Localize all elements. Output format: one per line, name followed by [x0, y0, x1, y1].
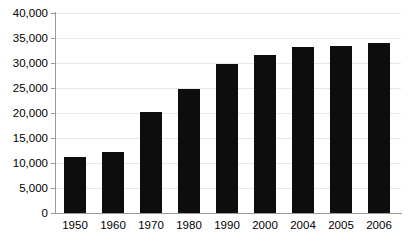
- x-axis-tick-label: 2006: [360, 219, 398, 231]
- x-axis-line: [56, 213, 402, 214]
- bar-series: [56, 13, 401, 213]
- bar: [102, 152, 124, 213]
- x-axis-tick-label: 1960: [94, 219, 132, 231]
- y-axis-tick-label: 40,000: [0, 7, 48, 19]
- bar: [330, 46, 352, 214]
- bar-slot: [246, 13, 284, 213]
- x-axis-tick-label: 1950: [56, 219, 94, 231]
- bar: [64, 157, 86, 213]
- bar: [368, 43, 390, 213]
- bar: [178, 89, 200, 214]
- x-axis-labels: 195019601970198019902000200420052006: [56, 219, 401, 241]
- y-axis-tick-label: 15,000: [0, 132, 48, 144]
- bar-slot: [56, 13, 94, 213]
- bar-slot: [360, 13, 398, 213]
- bar: [140, 112, 162, 213]
- bar-slot: [132, 13, 170, 213]
- y-axis-tick-label: 30,000: [0, 57, 48, 69]
- bar: [292, 47, 314, 213]
- bar-slot: [94, 13, 132, 213]
- x-axis-tick-label: 2000: [246, 219, 284, 231]
- x-axis-tick-label: 2005: [322, 219, 360, 231]
- x-axis-tick-label: 1990: [208, 219, 246, 231]
- y-axis-tick-label: 10,000: [0, 157, 48, 169]
- x-axis-tick-label: 1980: [170, 219, 208, 231]
- bar-slot: [284, 13, 322, 213]
- bar-slot: [322, 13, 360, 213]
- y-axis-tick-label: 20,000: [0, 107, 48, 119]
- x-axis-tick-label: 2004: [284, 219, 322, 231]
- bar: [216, 64, 238, 214]
- y-axis-labels: 40,00035,00030,00025,00020,00015,00010,0…: [0, 0, 48, 250]
- y-axis-tick: [51, 213, 56, 214]
- y-axis-tick-label: 35,000: [0, 32, 48, 44]
- bar-slot: [208, 13, 246, 213]
- bar: [254, 55, 276, 214]
- y-axis-tick-label: 0: [0, 207, 48, 219]
- bar-slot: [170, 13, 208, 213]
- y-axis-tick-label: 25,000: [0, 82, 48, 94]
- x-axis-tick-label: 1970: [132, 219, 170, 231]
- y-axis-tick-label: 5,000: [0, 182, 48, 194]
- bar-chart: 40,00035,00030,00025,00020,00015,00010,0…: [0, 0, 417, 250]
